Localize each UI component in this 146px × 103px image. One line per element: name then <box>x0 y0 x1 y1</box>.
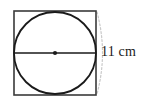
dimension-label: 11 cm <box>101 44 136 60</box>
center-dot <box>53 51 57 55</box>
geometry-figure: 11 cm <box>0 0 146 103</box>
